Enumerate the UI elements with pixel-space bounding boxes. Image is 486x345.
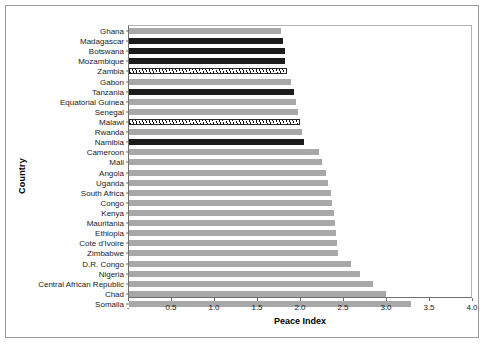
category-label: Uganda <box>96 178 124 187</box>
bar <box>129 119 300 125</box>
bar <box>129 89 294 95</box>
x-axis-tick-label: 2.5 <box>337 303 348 312</box>
bar-row: Senegal <box>129 107 471 117</box>
bar-row: Cameroon <box>129 147 471 157</box>
bar-row: Mozambique <box>129 56 471 66</box>
category-label: Somalia <box>95 300 124 309</box>
category-label: D.R. Congo <box>82 259 124 268</box>
category-label: Mozambique <box>78 57 124 66</box>
x-axis-tick <box>343 298 344 301</box>
category-label: Zimbabwe <box>87 249 124 258</box>
bar <box>129 220 335 226</box>
bar <box>129 240 337 246</box>
category-label: Chad <box>105 289 124 298</box>
category-label: Ghana <box>100 27 124 36</box>
x-axis-tick <box>214 298 215 301</box>
category-label: Cote d'Ivoire <box>79 239 124 248</box>
x-axis-tick-label: 3.0 <box>380 303 391 312</box>
category-label: Tanzania <box>92 87 124 96</box>
bar <box>129 48 285 54</box>
bar <box>129 99 296 105</box>
category-label: Zambia <box>97 67 124 76</box>
bar <box>129 139 304 145</box>
bar-row: Madagascar <box>129 36 471 46</box>
bar-row: South Africa <box>129 188 471 198</box>
bar <box>129 291 386 297</box>
bar <box>129 68 287 74</box>
category-label: Gabon <box>100 77 124 86</box>
bar <box>129 38 283 44</box>
bar-row: Zambia <box>129 66 471 76</box>
bar <box>129 180 328 186</box>
x-axis: -0.51.01.52.02.53.03.54.0 <box>128 298 472 318</box>
category-label: Kenya <box>101 209 124 218</box>
x-axis-title: Peace Index <box>128 316 472 326</box>
bar-row: Zimbabwe <box>129 248 471 258</box>
category-label: Malawi <box>99 118 124 127</box>
bar <box>129 58 285 64</box>
bar <box>129 129 302 135</box>
bar-row: Ethiopia <box>129 228 471 238</box>
bar-row: Congo <box>129 198 471 208</box>
bar-row: Rwanda <box>129 127 471 137</box>
bar <box>129 170 326 176</box>
x-axis-tick <box>386 298 387 301</box>
category-label: Cameroon <box>87 148 124 157</box>
bar-row: Namibia <box>129 137 471 147</box>
category-label: Congo <box>100 198 124 207</box>
bar-row: Malawi <box>129 117 471 127</box>
category-label: Rwanda <box>95 128 124 137</box>
bar <box>129 200 332 206</box>
x-axis-tick <box>171 298 172 301</box>
bar-row: Nigeria <box>129 269 471 279</box>
x-axis-tick <box>128 298 129 301</box>
bar <box>129 190 331 196</box>
category-label: Botswana <box>89 47 124 56</box>
category-label: Mauritania <box>87 219 124 228</box>
bar <box>129 261 351 267</box>
category-label: Senegal <box>95 107 124 116</box>
bar-row: Central African Republic <box>129 279 471 289</box>
bar-row: Mauritania <box>129 218 471 228</box>
bar-row: Botswana <box>129 46 471 56</box>
bar <box>129 281 373 287</box>
x-axis-tick <box>472 298 473 301</box>
category-label: South Africa <box>81 188 124 197</box>
x-axis-tick <box>257 298 258 301</box>
bar <box>129 79 291 85</box>
bar-row: Cote d'Ivoire <box>129 238 471 248</box>
y-axis-title: Country <box>15 121 29 231</box>
x-axis-tick-label: 1.0 <box>208 303 219 312</box>
bar-rows: GhanaMadagascarBotswanaMozambiqueZambiaG… <box>129 26 471 297</box>
bar <box>129 210 334 216</box>
bar <box>129 271 360 277</box>
bar <box>129 109 298 115</box>
bar-row: Equatorial Guinea <box>129 97 471 107</box>
category-label: Ethiopia <box>95 229 124 238</box>
chart-frame: Country GhanaMadagascarBotswanaMozambiqu… <box>5 5 479 338</box>
bar-row: Angola <box>129 168 471 178</box>
bar-row: D.R. Congo <box>129 259 471 269</box>
bar-row: Uganda <box>129 178 471 188</box>
x-axis-tick-label: 4.0 <box>466 303 477 312</box>
bar-row: Kenya <box>129 208 471 218</box>
bar <box>129 250 338 256</box>
category-label: Nigeria <box>99 269 124 278</box>
x-axis-tick <box>300 298 301 301</box>
category-label: Central African Republic <box>38 279 124 288</box>
category-label: Equatorial Guinea <box>60 97 124 106</box>
category-label: Namibia <box>95 138 124 147</box>
x-axis-tick <box>429 298 430 301</box>
bar <box>129 149 319 155</box>
x-axis-tick-label: 3.5 <box>423 303 434 312</box>
bar-row: Gabon <box>129 77 471 87</box>
category-label: Madagascar <box>80 37 124 46</box>
bar-row: Mali <box>129 157 471 167</box>
category-label: Mali <box>109 158 124 167</box>
bar-row: Tanzania <box>129 87 471 97</box>
x-axis-tick-label: - <box>127 303 130 312</box>
plot-area: GhanaMadagascarBotswanaMozambiqueZambiaG… <box>128 25 472 298</box>
x-axis-tick-label: 1.5 <box>251 303 262 312</box>
x-axis-tick-label: 2.0 <box>294 303 305 312</box>
bar <box>129 230 336 236</box>
